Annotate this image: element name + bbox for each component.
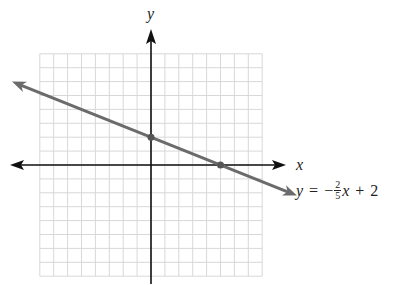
y-intercept-point [148, 134, 155, 141]
equation-equals: = [309, 182, 318, 200]
x-axis-label: x [295, 156, 303, 173]
equation-plus: + [355, 182, 364, 200]
equation-var: x [342, 182, 349, 200]
x-intercept-point [217, 162, 224, 169]
equation-constant: 2 [370, 182, 378, 200]
y-axis-label: y [145, 5, 155, 23]
fraction-denominator: 5 [335, 191, 340, 201]
line-path [19, 85, 289, 193]
equation-label: y = − 2 5 x + 2 [296, 180, 378, 201]
equation-minus: − [324, 182, 333, 200]
equation-lhs: y [296, 182, 303, 200]
coordinate-plane: y x [0, 0, 407, 285]
equation-fraction: 2 5 [334, 180, 341, 201]
